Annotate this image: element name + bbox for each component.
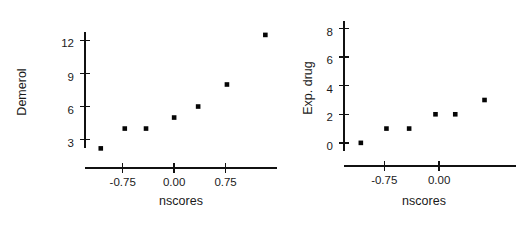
x-axis-tick-label: 0.75	[214, 176, 236, 188]
y-axis-tick-label: 9	[68, 71, 74, 83]
data-point-marker	[407, 126, 412, 131]
data-point-marker	[98, 146, 103, 151]
x-axis-tick-label: 0.00	[163, 176, 185, 188]
data-point-marker	[433, 112, 438, 117]
chart-panel-demerol: 36912-0.750.000.75Demerolnscores	[0, 0, 290, 231]
y-axis-tick-label: 8	[327, 26, 333, 38]
data-point-marker	[453, 112, 458, 117]
demerol-plot-svg: 36912-0.750.000.75Demerolnscores	[0, 0, 290, 231]
data-point-marker	[359, 141, 364, 146]
data-point-marker	[196, 104, 201, 109]
y-axis-tick-label: 2	[327, 111, 333, 123]
x-axis-title: nscores	[402, 194, 446, 208]
data-point-marker	[122, 126, 127, 131]
y-axis-tick-label: 0	[327, 140, 333, 152]
x-axis-tick-label: -0.75	[110, 176, 136, 188]
y-axis-tick-label: 6	[68, 104, 74, 116]
data-point-marker	[172, 115, 177, 120]
data-point-marker	[482, 98, 487, 103]
exp-drug-plot-svg: 02468-0.750.00Exp. drugnscores	[258, 0, 516, 231]
data-point-marker	[384, 126, 389, 131]
data-point-marker	[225, 82, 230, 87]
y-axis-tick-label: 6	[327, 54, 333, 66]
y-axis-title: Exp. drug	[301, 61, 315, 115]
chart-panel-exp-drug: 02468-0.750.00Exp. drugnscores	[258, 0, 516, 231]
x-axis-tick-label: -0.75	[371, 174, 397, 186]
y-axis-title: Demerol	[15, 68, 29, 115]
data-point-marker	[144, 126, 149, 131]
scatter-plot-figure: 36912-0.750.000.75Demerolnscores 02468-0…	[0, 0, 516, 231]
y-axis-tick-label: 4	[327, 83, 334, 95]
y-axis-tick-label: 3	[68, 137, 74, 149]
x-axis-title: nscores	[159, 194, 203, 208]
x-axis-tick-label: 0.00	[428, 174, 450, 186]
y-axis-tick-label: 12	[61, 37, 74, 49]
